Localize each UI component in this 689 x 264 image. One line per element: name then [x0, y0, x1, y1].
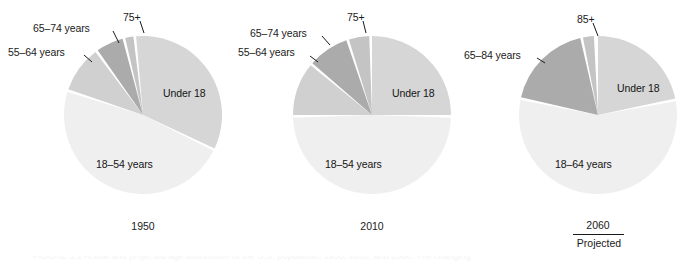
- callout-label-2060-65-84: 65–84 years: [464, 49, 521, 61]
- projected-label-2060: Projected: [568, 237, 630, 249]
- pie-pie-2060: [519, 36, 677, 194]
- slice-label-2010-18-54: 18–54 years: [325, 158, 382, 170]
- year-label-2060: 2060: [573, 219, 623, 231]
- callout-label-1950-55-64: 55–64 years: [8, 46, 65, 58]
- pie-pie-2010: [293, 36, 451, 194]
- projected-divider-rule: [573, 234, 624, 235]
- figure-caption-strip: FIGURE 1.2 Actual and projected age dist…: [0, 256, 689, 264]
- callout-label-2060-85-plus: 85+: [577, 13, 595, 25]
- callout-label-2010-55-64: 55–64 years: [238, 46, 295, 58]
- slice-label-1950-under18: Under 18: [163, 87, 205, 99]
- slice-label-2010-under18: Under 18: [392, 87, 434, 99]
- slice-label-2060-18-64: 18–64 years: [555, 158, 612, 170]
- slice-label-1950-18-54: 18–54 years: [96, 158, 153, 170]
- pie-slice-under18[interactable]: [372, 36, 451, 115]
- leader-line-2: [140, 21, 144, 33]
- pie-slice-under18[interactable]: [598, 36, 675, 115]
- figure-caption-text: FIGURE 1.2 Actual and projected age dist…: [33, 256, 471, 261]
- pie-slice-18-54[interactable]: [293, 115, 451, 194]
- pie-pie-1950: [64, 36, 222, 194]
- year-label-2010: 2010: [347, 220, 397, 232]
- callout-label-1950-65-74: 65–74 years: [33, 22, 90, 34]
- age-distribution-pie-figure: Under 18 18–54 years 55–64 years 65–74 y…: [0, 0, 689, 264]
- year-label-1950: 1950: [118, 220, 168, 232]
- callout-label-2010-65-74: 65–74 years: [250, 27, 307, 39]
- slice-label-2060-under18: Under 18: [617, 82, 659, 94]
- leader-line-4: [322, 36, 330, 45]
- callout-label-1950-75-plus: 75+: [123, 11, 141, 23]
- callout-label-2010-75-plus: 75+: [347, 11, 365, 23]
